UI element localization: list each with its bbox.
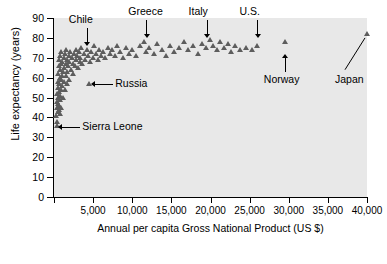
y-tick-label: 80 (0, 33, 44, 43)
x-tick (93, 197, 94, 203)
annotation-label-japan: Japan (335, 74, 364, 85)
data-point (176, 45, 182, 50)
annotation-arrowhead (84, 42, 90, 46)
data-point (129, 47, 135, 52)
data-point (195, 51, 201, 56)
data-point (151, 51, 157, 56)
annotation-leader-line (207, 20, 208, 35)
data-point (70, 71, 76, 76)
data-point (120, 55, 126, 60)
y-axis-title: Life expectancy (years) (9, 9, 21, 159)
data-point (228, 49, 234, 54)
data-point (57, 111, 63, 116)
data-point (225, 41, 231, 46)
data-point (181, 39, 187, 44)
data-point (203, 45, 209, 50)
x-tick-label: 40,000 (344, 205, 387, 216)
annotation-leader-line (61, 127, 80, 128)
annotation-label-italy: Italy (189, 6, 208, 17)
annotation-leader-line (285, 58, 286, 72)
scatter-plot-figure: 0102030405060708090 5,00010,00015,00020,… (0, 0, 387, 264)
x-tick (367, 197, 368, 203)
annotation-label-chile: Chile (69, 14, 93, 25)
y-tick (47, 197, 54, 198)
annotation-leader-line (94, 84, 113, 85)
data-point (207, 37, 213, 42)
annotation-label-greece: Greece (128, 6, 162, 17)
data-point (217, 39, 223, 44)
y-tick-label: 10 (0, 172, 44, 182)
y-tick-label: 60 (0, 73, 44, 83)
x-tick (171, 197, 172, 203)
data-point (133, 53, 139, 58)
data-point (114, 43, 120, 48)
x-tick (328, 197, 329, 203)
y-tick (47, 177, 54, 178)
data-point (159, 47, 165, 52)
y-tick (47, 58, 54, 59)
annotation-label-norway: Norway (264, 74, 300, 85)
x-axis-title: Annual per capita Gross National Product… (54, 222, 367, 234)
data-point (163, 53, 169, 58)
y-tick-label: 70 (0, 53, 44, 63)
data-point (146, 45, 152, 50)
annotation-arrowhead (255, 34, 261, 38)
y-tick-label: 50 (0, 93, 44, 103)
annotation-leader-line (146, 20, 147, 35)
data-point (66, 77, 72, 82)
y-tick-label: 0 (0, 192, 44, 202)
x-tick (54, 197, 55, 203)
y-tick-label: 40 (0, 112, 44, 122)
annotation-arrowhead (58, 124, 62, 130)
data-point (364, 31, 370, 36)
annotation-label-us: U.S. (239, 6, 259, 17)
annotation-arrowhead (204, 34, 210, 38)
y-tick (47, 98, 54, 99)
annotation-arrowhead (282, 54, 288, 58)
data-point (141, 39, 147, 44)
y-tick (47, 157, 54, 158)
annotation-leader-line (257, 20, 258, 35)
annotation-label-russia: Russia (115, 78, 147, 89)
annotation-arrowhead (144, 34, 150, 38)
data-point (62, 87, 68, 92)
y-tick-label: 20 (0, 152, 44, 162)
data-point (190, 43, 196, 48)
y-tick-label: 30 (0, 132, 44, 142)
data-point (282, 39, 288, 44)
annotation-leader-line (87, 28, 88, 43)
x-tick (250, 197, 251, 203)
data-point (123, 45, 129, 50)
y-tick (47, 38, 54, 39)
x-tick (289, 197, 290, 203)
data-point (214, 47, 220, 52)
annotation-arrowhead (91, 81, 95, 87)
data-point (243, 45, 249, 50)
data-point (60, 95, 66, 100)
data-point (254, 43, 260, 48)
annotation-label-sierraleone: Sierra Leone (82, 121, 142, 132)
data-point (58, 105, 64, 110)
data-point (167, 43, 173, 48)
x-tick (211, 197, 212, 203)
y-tick (47, 78, 54, 79)
y-tick-label: 90 (0, 13, 44, 23)
data-point (154, 41, 160, 46)
y-tick (47, 137, 54, 138)
y-tick (47, 18, 54, 19)
x-tick (132, 197, 133, 203)
